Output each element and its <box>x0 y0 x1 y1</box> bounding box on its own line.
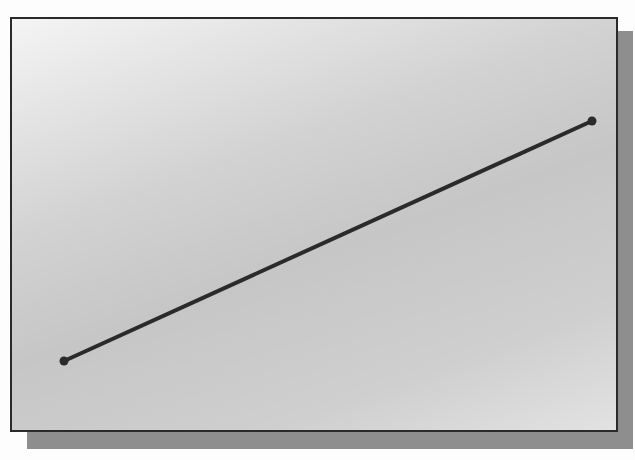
drawing-canvas[interactable] <box>10 17 618 432</box>
drawing-stage <box>0 0 635 460</box>
line-drawing <box>12 19 616 430</box>
end-point-handle[interactable] <box>588 117 597 126</box>
start-point-handle[interactable] <box>60 357 69 366</box>
line-segment[interactable] <box>64 121 592 361</box>
